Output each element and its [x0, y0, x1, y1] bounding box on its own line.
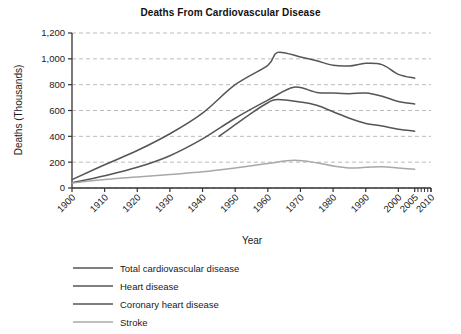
series-group	[72, 52, 415, 183]
y-tick-label: 400	[49, 131, 65, 142]
series-line	[219, 100, 415, 137]
chart-container: Deaths From Cardiovascular Disease 02004…	[0, 0, 461, 334]
y-axis-title: Deaths (Thousands)	[13, 65, 24, 156]
x-tick-label: 1930	[153, 192, 176, 215]
series-line	[72, 87, 415, 183]
series-line	[72, 52, 415, 179]
y-tick-label: 600	[49, 105, 65, 116]
legend-label: Stroke	[120, 317, 147, 328]
legend-label: Coronary heart disease	[120, 299, 219, 310]
y-tick-label: 0	[60, 182, 65, 193]
x-tick-label: 1920	[120, 192, 143, 215]
y-tick-label-group: 02004006008001,0001,200	[41, 27, 65, 193]
x-tick-label: 1980	[316, 192, 339, 215]
legend-label: Heart disease	[120, 281, 179, 292]
gridlines-group	[72, 33, 431, 188]
axes-group	[72, 33, 431, 188]
x-axis-title: Year	[242, 235, 263, 246]
x-tick-label: 2010	[414, 192, 437, 215]
legend-label: Total cardiovascular disease	[120, 263, 239, 274]
x-tick-label: 1950	[218, 192, 241, 215]
x-tick-label-group: 1900191019201930194019501960197019801990…	[55, 192, 437, 215]
y-tick-label: 200	[49, 157, 65, 168]
x-tick-label: 1940	[185, 192, 208, 215]
x-tick-label: 1970	[283, 192, 306, 215]
legend-group: Total cardiovascular diseaseHeart diseas…	[73, 263, 239, 328]
y-tick-label: 1,200	[41, 27, 65, 38]
y-tick-label: 1,000	[41, 53, 65, 64]
x-tick-label: 1910	[87, 192, 110, 215]
x-tick-label: 1960	[251, 192, 274, 215]
y-tick-label: 800	[49, 79, 65, 90]
x-tick-label: 1990	[348, 192, 371, 215]
x-tick-label: 1900	[55, 192, 78, 215]
chart-plot-svg: 02004006008001,0001,200 1900191019201930…	[0, 0, 461, 334]
